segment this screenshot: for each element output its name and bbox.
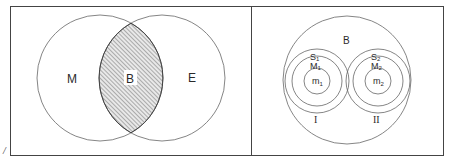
label-m1-small: m1 [312, 76, 324, 87]
label-m: M [67, 72, 77, 86]
label-b-intersection: B [126, 72, 134, 86]
label-m2-large: M2 [371, 61, 383, 71]
intersection-region [99, 15, 225, 141]
label-system-ii: II [373, 114, 380, 125]
right-panel: B S1 M1 m1 I S2 M2 m2 II [283, 16, 411, 144]
system-ii: S2 M2 m2 II [346, 49, 410, 125]
label-e: E [188, 71, 196, 85]
margin-mark: / [2, 145, 7, 156]
label-m2-small: m2 [373, 76, 385, 87]
figure: / M B E B S1 M1 m1 I S2 [0, 0, 450, 157]
system-i: S1 M1 m1 I [285, 49, 349, 125]
label-b-outer: B [343, 35, 350, 46]
label-system-i: I [314, 114, 317, 125]
label-m1-large: M1 [310, 61, 322, 71]
left-panel: M B E [37, 15, 225, 141]
